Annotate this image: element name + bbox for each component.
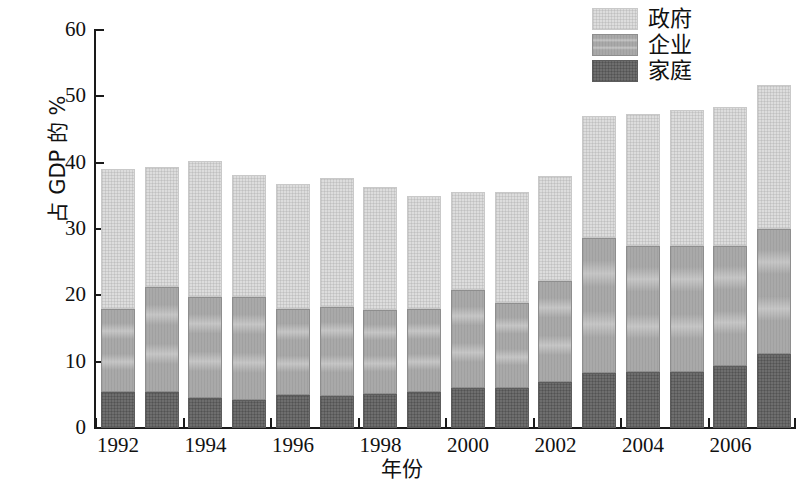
bar-2001[interactable] (495, 30, 529, 428)
bar-segment-household[interactable] (101, 392, 135, 428)
y-axis-tick-label: 20 (42, 284, 86, 305)
x-axis-tick-label: 1994 (170, 434, 240, 456)
bar-segment-enterprise[interactable] (451, 290, 485, 388)
bar-segment-enterprise[interactable] (407, 309, 441, 393)
y-axis-tick-label: 0 (42, 417, 86, 438)
bar-segment-enterprise[interactable] (276, 309, 310, 395)
bar-segment-government[interactable] (188, 161, 222, 297)
legend-swatch-household-icon (592, 60, 638, 82)
bar-segment-household[interactable] (363, 394, 397, 428)
bar-segment-government[interactable] (626, 114, 660, 245)
bar-segment-enterprise[interactable] (145, 287, 179, 392)
bar-segment-government[interactable] (451, 192, 485, 290)
bar-segment-household[interactable] (495, 388, 529, 428)
bar-2003[interactable] (582, 30, 616, 428)
bar-segment-household[interactable] (626, 372, 660, 428)
bar-segment-household[interactable] (232, 400, 266, 428)
bar-segment-household[interactable] (713, 366, 747, 428)
bar-1995[interactable] (232, 30, 266, 428)
bar-segment-household[interactable] (670, 372, 704, 428)
x-axis-tick-label: 1998 (345, 434, 415, 456)
bar-segment-government[interactable] (276, 184, 310, 309)
bar-segment-enterprise[interactable] (101, 309, 135, 392)
bar-segment-government[interactable] (407, 196, 441, 309)
y-axis-title: 占 GDP 的 % (47, 59, 69, 259)
x-axis-tick-label: 2000 (433, 434, 503, 456)
bar-segment-enterprise[interactable] (713, 246, 747, 367)
bar-segment-household[interactable] (188, 398, 222, 428)
bar-segment-enterprise[interactable] (582, 238, 616, 373)
legend-label-government: 政府 (648, 8, 692, 30)
x-axis-tick-label: 1992 (83, 434, 153, 456)
bar-2006[interactable] (713, 30, 747, 428)
bar-segment-enterprise[interactable] (188, 297, 222, 398)
bar-segment-enterprise[interactable] (232, 297, 266, 400)
legend-item-household[interactable]: 家庭 (592, 60, 692, 82)
bar-2004[interactable] (626, 30, 660, 428)
bar-segment-household[interactable] (757, 354, 791, 428)
bar-1999[interactable] (407, 30, 441, 428)
bar-segment-enterprise[interactable] (670, 246, 704, 372)
bar-1998[interactable] (363, 30, 397, 428)
bar-2007[interactable] (757, 30, 791, 428)
legend-label-household: 家庭 (648, 60, 692, 82)
x-axis-tick-label: 1996 (258, 434, 328, 456)
bar-segment-government[interactable] (145, 167, 179, 287)
bar-segment-household[interactable] (538, 382, 572, 428)
x-axis-tick-label: 2006 (695, 434, 765, 456)
bar-1992[interactable] (101, 30, 135, 428)
bar-1997[interactable] (320, 30, 354, 428)
stacked-bar-chart: 0102030405060 19921994199619982000200220… (0, 0, 804, 488)
plot-area (96, 30, 796, 428)
bar-2005[interactable] (670, 30, 704, 428)
bar-segment-household[interactable] (320, 396, 354, 428)
bar-segment-household[interactable] (407, 392, 441, 428)
bar-segment-enterprise[interactable] (320, 307, 354, 396)
bar-segment-enterprise[interactable] (363, 310, 397, 394)
bar-segment-enterprise[interactable] (538, 281, 572, 382)
bar-segment-government[interactable] (582, 116, 616, 238)
bar-1994[interactable] (188, 30, 222, 428)
bar-segment-household[interactable] (582, 373, 616, 428)
bar-segment-government[interactable] (232, 175, 266, 298)
bar-2002[interactable] (538, 30, 572, 428)
legend-swatch-enterprise-icon (592, 34, 638, 56)
bar-segment-household[interactable] (145, 392, 179, 428)
bar-segment-government[interactable] (363, 187, 397, 310)
bar-segment-government[interactable] (713, 107, 747, 246)
legend-label-enterprise: 企业 (648, 34, 692, 56)
bar-segment-household[interactable] (276, 395, 310, 428)
bar-segment-government[interactable] (757, 85, 791, 229)
bar-segment-enterprise[interactable] (495, 303, 529, 389)
bar-1993[interactable] (145, 30, 179, 428)
legend-item-government[interactable]: 政府 (592, 8, 692, 30)
bar-segment-government[interactable] (320, 178, 354, 307)
y-axis-tick-label: 10 (42, 351, 86, 372)
x-axis-tick-label: 2002 (520, 434, 590, 456)
legend-item-enterprise[interactable]: 企业 (592, 34, 692, 56)
x-axis-tick-label: 2004 (608, 434, 678, 456)
y-axis-tick-label: 60 (42, 19, 86, 40)
bar-segment-government[interactable] (538, 176, 572, 281)
bar-segment-enterprise[interactable] (757, 229, 791, 354)
legend-swatch-government-icon (592, 8, 638, 30)
bar-segment-enterprise[interactable] (626, 246, 660, 372)
bar-segment-government[interactable] (101, 169, 135, 310)
x-axis-title: 年份 (0, 458, 804, 480)
chart-legend: 政府 企业 家庭 (592, 8, 692, 82)
bar-1996[interactable] (276, 30, 310, 428)
bar-segment-household[interactable] (451, 388, 485, 428)
bar-2000[interactable] (451, 30, 485, 428)
bar-segment-government[interactable] (495, 192, 529, 303)
bar-segment-government[interactable] (670, 110, 704, 245)
